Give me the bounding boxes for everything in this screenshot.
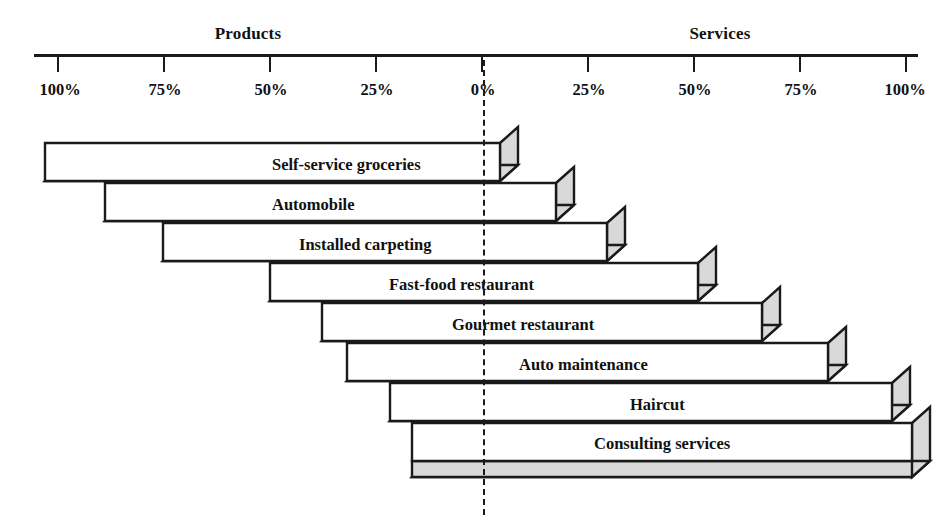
bar-label-haircut: Haircut [630, 395, 685, 415]
bar-label-automobile: Automobile [272, 195, 355, 215]
bar-label-fast-food-restaurant: Fast-food restaurant [389, 275, 534, 295]
bars-svg: .face { fill:#ffffff; stroke:#1a1a1a; st… [0, 0, 950, 525]
bar-label-self-service-groceries: Self-service groceries [272, 155, 421, 175]
bar-label-installed-carpeting: Installed carpeting [299, 235, 431, 255]
plot-area: .face { fill:#ffffff; stroke:#1a1a1a; st… [0, 0, 950, 525]
bar-label-consulting-services: Consulting services [594, 434, 730, 454]
bar-label-auto-maintenance: Auto maintenance [519, 355, 648, 375]
bar-label-gourmet-restaurant: Gourmet restaurant [452, 315, 594, 335]
bar-base-8 [412, 461, 912, 477]
chart-root: Products Services 100% 75% 50% 25% 0% 25… [0, 0, 950, 525]
